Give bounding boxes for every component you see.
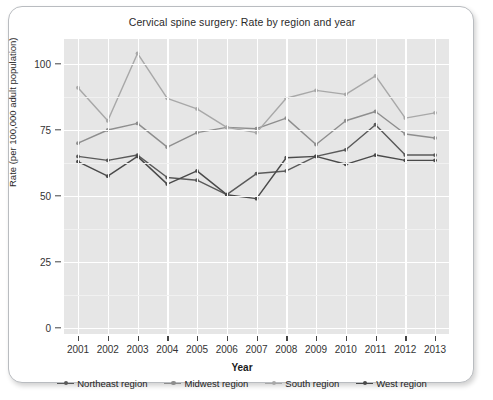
gridline-horizontal-minor: [64, 229, 449, 230]
y-axis-tick-mark: [55, 129, 61, 130]
gridline-vertical: [138, 39, 139, 334]
y-axis-tick-mark: [55, 261, 61, 262]
gridline-horizontal-minor: [64, 97, 449, 98]
gridline-horizontal: [64, 196, 449, 197]
y-axis-tick-label: 25: [17, 257, 51, 268]
x-axis-tick-mark: [286, 336, 287, 341]
gridline-horizontal: [64, 64, 449, 65]
legend-marker-icon: [265, 379, 282, 388]
gridline-vertical: [316, 39, 317, 334]
chart-title: Cervical spine surgery: Rate by region a…: [9, 16, 475, 28]
legend-label: South region: [285, 378, 339, 389]
y-axis-tick-mark: [55, 195, 61, 196]
gridline-vertical: [286, 39, 287, 334]
x-axis-tick-mark: [78, 336, 79, 341]
x-axis-tick-mark: [376, 336, 377, 341]
x-axis-tick-mark: [346, 336, 347, 341]
legend-item-south-region[interactable]: South region: [265, 378, 339, 389]
gridline-vertical: [257, 39, 258, 334]
chart-legend: Northeast regionMidwest regionSouth regi…: [9, 378, 475, 389]
gridline-vertical: [346, 39, 347, 334]
gridline-horizontal: [64, 262, 449, 263]
gridline-horizontal: [64, 130, 449, 131]
plot-panel: [64, 39, 449, 334]
y-axis-tick-mark: [55, 63, 61, 64]
gridline-vertical: [167, 39, 168, 334]
gridline-horizontal-minor: [64, 295, 449, 296]
legend-item-northeast-region[interactable]: Northeast region: [57, 378, 147, 389]
gridline-vertical: [227, 39, 228, 334]
legend-marker-icon: [164, 379, 181, 388]
chart-card: Cervical spine surgery: Rate by region a…: [8, 6, 474, 383]
x-axis-tick-mark: [227, 336, 228, 341]
legend-item-west-region[interactable]: West region: [356, 378, 427, 389]
x-axis-tick-label: 2013: [415, 344, 455, 355]
gridline-vertical: [108, 39, 109, 334]
x-axis-tick-mark: [405, 336, 406, 341]
legend-marker-icon: [356, 379, 373, 388]
chart-screenshot: Cervical spine surgery: Rate by region a…: [0, 0, 493, 400]
x-axis-tick-mark: [316, 336, 317, 341]
gridline-vertical: [197, 39, 198, 334]
gridline-vertical: [405, 39, 406, 334]
y-axis-tick-label: 0: [17, 323, 51, 334]
y-axis-tick-mark: [55, 327, 61, 328]
y-axis-tick-label: 75: [17, 125, 51, 136]
legend-item-midwest-region[interactable]: Midwest region: [164, 378, 248, 389]
y-axis-tick-label: 50: [17, 191, 51, 202]
y-axis-tick-label: 100: [17, 59, 51, 70]
gridline-vertical: [435, 39, 436, 334]
x-axis-label: Year: [9, 362, 475, 373]
gridline-horizontal-minor: [64, 163, 449, 164]
legend-label: West region: [376, 378, 427, 389]
legend-marker-icon: [57, 379, 74, 388]
gridline-horizontal: [64, 328, 449, 329]
gridline-vertical: [376, 39, 377, 334]
x-axis-tick-mark: [167, 336, 168, 341]
legend-label: Northeast region: [77, 378, 147, 389]
gridline-vertical: [78, 39, 79, 334]
legend-label: Midwest region: [184, 378, 248, 389]
x-axis-tick-mark: [197, 336, 198, 341]
x-axis-tick-mark: [108, 336, 109, 341]
x-axis-tick-mark: [435, 336, 436, 341]
x-axis-tick-mark: [138, 336, 139, 341]
x-axis-tick-mark: [257, 336, 258, 341]
